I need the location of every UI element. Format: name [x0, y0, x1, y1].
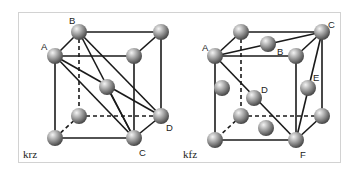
label-b: B	[277, 46, 283, 57]
atom-f	[288, 132, 304, 148]
atom	[288, 48, 304, 64]
label-e: E	[313, 72, 319, 83]
atom-c	[126, 130, 142, 146]
atom	[71, 108, 87, 124]
caption-krz: krz	[23, 148, 37, 160]
label-d: D	[261, 84, 268, 95]
atom-a	[207, 48, 223, 64]
crystal-structures-diagram: A B C D krz	[0, 0, 359, 177]
atom-b	[260, 36, 276, 52]
label-a: A	[202, 42, 209, 53]
atom-d	[246, 90, 262, 106]
atom	[207, 132, 223, 148]
atom	[153, 24, 169, 40]
atom	[47, 130, 63, 146]
atom	[314, 108, 330, 124]
label-d: D	[166, 122, 173, 133]
atom	[233, 24, 249, 40]
label-c: C	[139, 147, 146, 158]
atom	[233, 108, 249, 124]
atom-face	[258, 120, 274, 136]
atom	[126, 48, 142, 64]
atom-center	[99, 79, 115, 95]
bcc-unit-cell: A B C D krz	[23, 15, 173, 160]
atom-face	[214, 80, 230, 96]
label-f: F	[300, 149, 306, 160]
label-a: A	[41, 41, 48, 52]
label-b: B	[69, 15, 75, 26]
caption-kfz: kfz	[183, 148, 197, 160]
label-c: C	[328, 19, 335, 30]
fcc-unit-cell: A B C D E F kfz	[183, 19, 335, 160]
atom-a	[47, 48, 63, 64]
atom-b	[71, 24, 87, 40]
